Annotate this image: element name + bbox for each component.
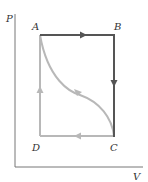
path-curve-a-c [40,35,114,136]
arrow-down-icon [111,80,118,87]
arrow-left-icon [74,133,81,140]
y-axis-label: P [5,13,13,24]
pv-diagram: P V A B C D [0,0,148,182]
arrow-right-icon [80,32,87,39]
arrow-up-icon [37,86,44,93]
x-axis-label: V [133,171,142,182]
point-label-b: B [113,21,121,32]
point-label-c: C [110,142,118,153]
point-label-a: A [31,21,39,32]
point-label-d: D [31,142,40,153]
